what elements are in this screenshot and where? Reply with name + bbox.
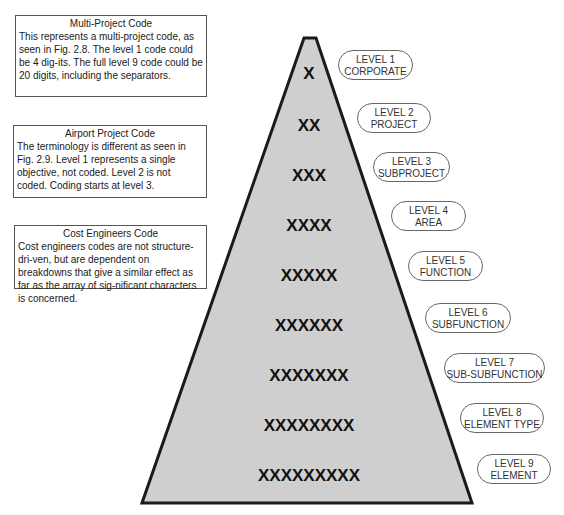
level-name: SUBFUNCTION bbox=[426, 319, 510, 331]
level-pill-1: LEVEL 1 CORPORATE bbox=[338, 50, 413, 80]
level-pill-5: LEVEL 5 FUNCTION bbox=[408, 251, 483, 281]
level-name: SUBPROJECT bbox=[374, 168, 449, 180]
level-pill-3: LEVEL 3 SUBPROJECT bbox=[373, 152, 450, 182]
level-name: ELEMENT TYPE bbox=[461, 419, 543, 431]
level-name: AREA bbox=[392, 217, 465, 229]
level-name: PROJECT bbox=[358, 119, 430, 131]
level-number: LEVEL 4 bbox=[392, 205, 465, 217]
level-number: LEVEL 1 bbox=[339, 54, 412, 66]
level-number: LEVEL 6 bbox=[426, 307, 510, 319]
level-number: LEVEL 7 bbox=[445, 357, 544, 369]
level-pill-8: LEVEL 8 ELEMENT TYPE bbox=[460, 403, 544, 433]
level-name: ELEMENT bbox=[478, 470, 550, 482]
level-number: LEVEL 5 bbox=[409, 255, 482, 267]
code-row-level-4: XXXX bbox=[209, 217, 409, 235]
level-number: LEVEL 2 bbox=[358, 107, 430, 119]
code-row-level-9: XXXXXXXXX bbox=[209, 467, 409, 485]
level-pill-2: LEVEL 2 PROJECT bbox=[357, 103, 431, 133]
level-pill-4: LEVEL 4 AREA bbox=[391, 201, 466, 231]
level-name: CORPORATE bbox=[339, 66, 412, 78]
level-pill-9: LEVEL 9 ELEMENT bbox=[477, 454, 551, 484]
level-pill-7: LEVEL 7 SUB-SUBFUNCTION bbox=[444, 353, 545, 383]
code-row-level-8: XXXXXXXX bbox=[209, 417, 409, 435]
level-number: LEVEL 8 bbox=[461, 407, 543, 419]
code-row-level-5: XXXXX bbox=[209, 267, 409, 285]
level-number: LEVEL 3 bbox=[374, 156, 449, 168]
level-pill-6: LEVEL 6 SUBFUNCTION bbox=[425, 303, 511, 333]
level-name: FUNCTION bbox=[409, 267, 482, 279]
code-row-level-6: XXXXXX bbox=[209, 317, 409, 335]
level-number: LEVEL 9 bbox=[478, 458, 550, 470]
code-row-level-7: XXXXXXX bbox=[209, 367, 409, 385]
level-name: SUB-SUBFUNCTION bbox=[445, 369, 544, 381]
